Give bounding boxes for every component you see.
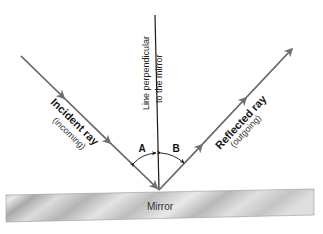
normal-label-line1: Line perpendicular — [141, 36, 151, 110]
angle-b-arc — [161, 153, 184, 163]
reflected-ray — [159, 50, 291, 190]
normal-label-line2: to the mirror — [154, 54, 164, 103]
incident-ray — [21, 56, 159, 190]
angle-a-arc — [134, 153, 156, 163]
angle-a-label: A — [138, 143, 145, 154]
angle-b-label: B — [172, 143, 179, 154]
reflection-diagram: Mirror Line perpendicular to the mirror … — [0, 0, 323, 234]
mirror-label: Mirror — [147, 201, 174, 212]
